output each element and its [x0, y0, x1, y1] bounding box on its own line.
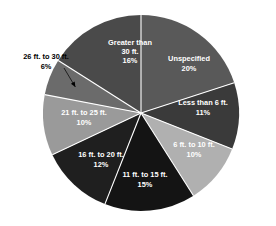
pie-chart-svg: Unspecified20%Less than 6 ft.11%6 ft. to… — [0, 0, 276, 226]
pie-chart: Unspecified20%Less than 6 ft.11%6 ft. to… — [0, 0, 276, 226]
